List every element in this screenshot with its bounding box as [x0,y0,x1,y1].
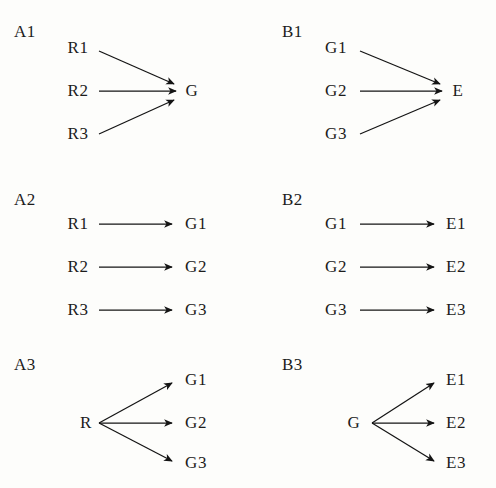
node-b1-e: E [453,81,464,101]
node-a1-r3: R3 [68,124,89,144]
edges-a2 [0,186,248,349]
node-b3-e1: E1 [446,370,466,390]
node-b3-g: G [348,413,361,433]
node-b2-e3: E3 [446,300,466,320]
node-b1-g3: G3 [325,124,347,144]
edge-r3-to-g [99,100,174,134]
node-b3-e3: E3 [446,453,466,473]
node-b1-g2: G2 [325,81,347,101]
edge-g1-to-e [360,51,440,84]
edge-r1-to-g [99,51,174,84]
panel-b2: B2G1G2G3E1E2E3 [248,186,496,349]
node-b2-g2: G2 [325,257,347,277]
edge-r-to-g3 [99,423,172,461]
panel-a2: A2R1R2R3G1G2G3 [0,186,248,349]
edge-g-to-e3 [372,423,434,461]
node-b2-e2: E2 [446,257,466,277]
edge-g3-to-e [360,100,440,134]
node-b3-e2: E2 [446,413,466,433]
edge-g-to-e1 [372,383,434,423]
node-a1-r1: R1 [68,38,89,58]
node-a3-g3: G3 [185,453,207,473]
node-a2-g1: G1 [185,214,207,234]
node-a3-r: R [80,413,92,433]
panel-b3: B3GE1E2E3 [248,351,496,488]
node-a1-g: G [186,81,199,101]
node-b2-g3: G3 [325,300,347,320]
edge-r-to-g1 [99,383,172,423]
edges-a1 [0,18,248,181]
node-a2-g2: G2 [185,257,207,277]
node-a1-r2: R2 [68,81,89,101]
node-a3-g2: G2 [185,413,207,433]
node-b2-g1: G1 [325,214,347,234]
panel-a3: A3RG1G2G3 [0,351,248,488]
node-a2-r3: R3 [68,300,89,320]
node-a3-g1: G1 [185,370,207,390]
node-b1-g1: G1 [325,38,347,58]
panel-b1: B1G1G2G3E [248,18,496,181]
figure-canvas: A1R1R2R3GB1G1G2G3EA2R1R2R3G1G2G3B2G1G2G3… [0,0,496,488]
node-a2-r2: R2 [68,257,89,277]
node-a2-r1: R1 [68,214,89,234]
panel-a1: A1R1R2R3G [0,18,248,181]
node-a2-g3: G3 [185,300,207,320]
edges-a3 [0,351,248,488]
node-b2-e1: E1 [446,214,466,234]
